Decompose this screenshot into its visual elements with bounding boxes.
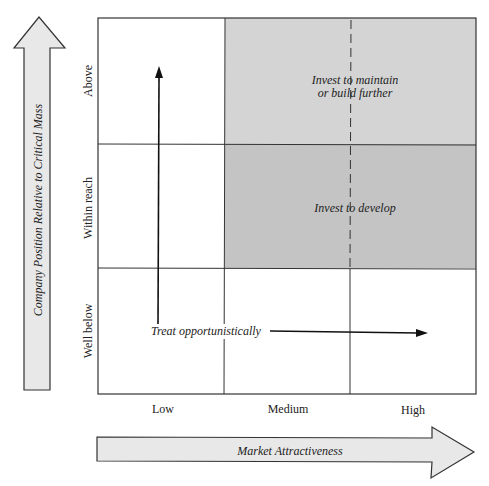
horizontal-arrow-line [270,331,418,333]
label-invest-maintain-line2: or build further [295,86,415,101]
row-divider [98,268,476,269]
x-axis-title: Market Attractiveness [200,444,380,459]
y-level-above: Above [81,41,95,121]
label-treat-opportunistically: Treat opportunistically [149,324,263,339]
y-level-within-reach: Within reach [81,168,95,248]
x-level-high: High [378,403,448,418]
y-level-well-below: Well below [81,291,95,371]
label-invest-develop: Invest to develop [295,201,415,216]
arrow-up-icon [155,66,163,78]
vertical-arrow-line [158,78,159,325]
y-axis-title: Company Position Relative to Critical Ma… [30,98,46,322]
x-level-medium: Medium [253,402,323,417]
arrow-right-icon [416,329,428,337]
x-level-low: Low [128,402,198,417]
